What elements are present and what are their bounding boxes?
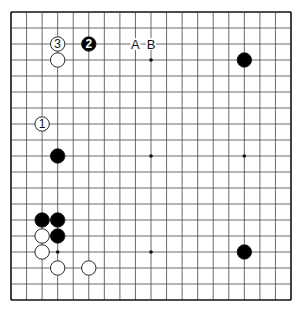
point-marker-b: B [147,37,156,52]
star-point-dot [243,154,247,158]
white-stone [35,229,49,243]
move-number-label: 1 [39,117,46,131]
stone-circle [35,245,49,259]
white-stone [50,261,64,275]
star-point-dot [149,154,153,158]
star-point-dot [149,58,153,62]
star-point-dot [149,250,153,254]
move-number-label: 3 [54,37,61,51]
stone-circle [50,149,64,163]
black-stone [50,229,64,243]
stone-circle [50,213,64,227]
white-stone [35,245,49,259]
black-stone [50,213,64,227]
stone-circle [237,245,251,259]
white-stone: 1 [35,117,49,132]
black-stone [35,213,49,227]
stone-circle [35,213,49,227]
white-stone: 3 [50,37,64,52]
stone-circle [237,53,251,67]
go-board-diagram: AB 321 [0,0,298,309]
point-marker-a: A [131,37,140,52]
stone-circle [35,229,49,243]
black-stone: 2 [82,37,96,52]
stone-circle [82,261,96,275]
black-stone [50,149,64,163]
black-stone [237,245,251,259]
black-stone [237,53,251,67]
stone-circle [50,229,64,243]
stone-circle [50,53,64,67]
stone-circle [50,261,64,275]
white-stone [50,53,64,67]
move-number-label: 2 [85,37,92,51]
star-point-dot [56,250,60,254]
white-stone [82,261,96,275]
